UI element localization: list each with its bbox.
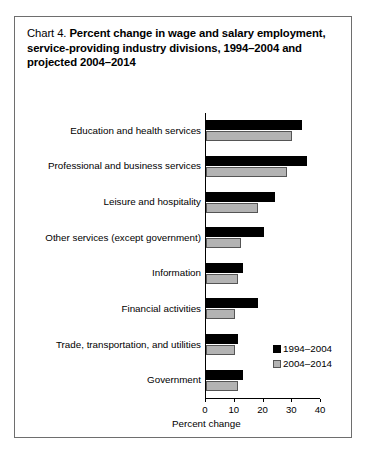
x-axis-title: Percent change	[172, 418, 241, 429]
category-label: Government	[33, 374, 201, 386]
legend-label: 2004–2014	[283, 356, 332, 371]
x-axis-tick-label: 0	[192, 404, 218, 415]
category-label: Leisure and hospitality	[33, 196, 201, 208]
bar	[206, 298, 258, 308]
bar	[206, 370, 243, 380]
bar	[206, 263, 243, 273]
chart-frame: Chart 4. Percent change in wage and sala…	[14, 16, 352, 438]
category-axis-labels: Education and health servicesProfessiona…	[31, 113, 201, 398]
bar	[206, 381, 238, 391]
category-label: Education and health services	[33, 125, 201, 137]
legend-item: 1994–2004	[273, 341, 332, 356]
bar	[206, 156, 307, 166]
bar	[206, 131, 292, 141]
legend: 1994–20042004–2014	[273, 341, 332, 371]
x-axis-tick-mark	[320, 399, 321, 402]
chart-title-main: Percent change in wage and salary employ…	[27, 27, 325, 68]
category-label: Information	[33, 267, 201, 279]
bar	[206, 238, 241, 248]
x-axis-tick-mark	[263, 399, 264, 402]
legend-swatch-icon	[273, 360, 281, 368]
x-axis-tick-label: 30	[278, 404, 304, 415]
bar	[206, 274, 238, 284]
chart-title-prefix: Chart 4.	[27, 27, 66, 39]
bar	[206, 345, 235, 355]
bar	[206, 227, 264, 237]
legend-item: 2004–2014	[273, 356, 332, 371]
x-axis-tick-mark	[234, 399, 235, 402]
category-label: Professional and business services	[33, 160, 201, 172]
chart-title: Chart 4. Percent change in wage and sala…	[27, 26, 339, 70]
x-axis-tick-label: 20	[250, 404, 276, 415]
category-label: Trade, transportation, and utilities	[33, 339, 201, 351]
bar	[206, 334, 238, 344]
category-label: Financial activities	[33, 303, 201, 315]
x-axis-tick-label: 40	[307, 404, 333, 415]
bar	[206, 192, 275, 202]
legend-label: 1994–2004	[283, 341, 332, 356]
bar	[206, 309, 235, 319]
category-label: Other services (except government)	[33, 232, 201, 244]
x-axis-tick-label: 10	[221, 404, 247, 415]
bar	[206, 203, 258, 213]
x-axis-tick-mark	[205, 399, 206, 402]
legend-swatch-icon	[273, 345, 281, 353]
bar	[206, 120, 302, 130]
bar	[206, 167, 287, 177]
x-axis-tick-mark	[291, 399, 292, 402]
